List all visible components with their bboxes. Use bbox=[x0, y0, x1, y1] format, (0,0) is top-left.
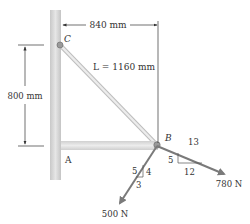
point-a-label: A bbox=[64, 155, 72, 165]
slope-780-hyp: 13 bbox=[188, 137, 199, 147]
length-label-text: L = 1160 mm bbox=[93, 62, 156, 72]
point-b-label: B bbox=[164, 133, 172, 143]
slope-500-vertical: 4 bbox=[146, 167, 151, 177]
force-780-label: 780 N bbox=[216, 179, 243, 189]
slope-780-vertical: 5 bbox=[168, 155, 173, 165]
slope-780-horizontal: 12 bbox=[184, 167, 195, 177]
force-500-label: 500 N bbox=[102, 209, 129, 219]
force-500-arrow bbox=[120, 146, 157, 203]
dim-800-label: 800 mm bbox=[7, 91, 42, 101]
member-cb-highlight bbox=[60, 45, 157, 145]
member-ab bbox=[61, 141, 158, 150]
length-label: L = 1160 mm bbox=[93, 62, 156, 72]
slope-triangle-780 bbox=[178, 153, 202, 163]
slope-500-horizontal: 3 bbox=[136, 180, 141, 190]
wall bbox=[50, 10, 61, 180]
slope-500-hyp: 5 bbox=[132, 166, 137, 176]
dim-840-label: 840 mm bbox=[89, 20, 127, 30]
pin-c bbox=[57, 42, 63, 48]
statics-diagram: 840 mm 800 mm L = 1160 mm C B A 5 4 3 50… bbox=[0, 0, 250, 224]
point-c-label: C bbox=[64, 34, 71, 44]
